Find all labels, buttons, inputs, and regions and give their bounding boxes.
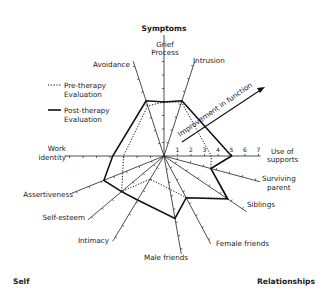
tick-label: 1 <box>176 146 180 153</box>
axis-label-intimacy: Intimacy <box>78 236 110 245</box>
tick-mark <box>112 199 113 201</box>
tick-mark <box>183 191 185 192</box>
tick-mark <box>139 166 140 168</box>
axis-label-parent: Surviving <box>262 174 296 183</box>
axis-label-selfesteem: Self-esteem <box>42 213 85 222</box>
axis-selfesteem <box>88 156 164 220</box>
data-polygons <box>104 101 232 219</box>
tick-mark <box>114 176 115 178</box>
tick-mark <box>154 130 156 131</box>
tick-label: 2 <box>189 146 193 153</box>
tick-mark <box>158 143 160 144</box>
axis-label-grief-2: Process <box>151 48 179 57</box>
tick-mark <box>203 165 204 167</box>
legend-pre-label-2: Evaluation <box>64 90 102 99</box>
tick-mark <box>231 200 232 202</box>
tick-mark <box>137 79 139 80</box>
tick-mark <box>76 191 77 193</box>
tick-mark <box>191 66 193 67</box>
tick-mark <box>189 203 191 204</box>
tick-mark <box>150 117 152 118</box>
axis-label-parent-2: parent <box>267 183 291 192</box>
group-label-relationships: Relationships <box>257 277 316 286</box>
improvement-arrow: Improvement in function <box>176 80 265 142</box>
axis-label-work-2: identity <box>39 153 67 162</box>
tick-mark <box>216 168 217 170</box>
tick-mark <box>186 169 187 171</box>
group-label-symptoms: Symptoms <box>141 24 187 33</box>
axis-label-supports-2: supports <box>267 155 299 164</box>
annotation-improvement: Improvement in function <box>176 80 254 138</box>
axis-male <box>164 156 181 254</box>
axis-intimacy <box>113 156 164 241</box>
tick-mark <box>166 143 168 144</box>
axis-label-avoidance: Avoidance <box>93 60 131 69</box>
tick-label: 6 <box>243 146 247 153</box>
tick-label: 4 <box>216 146 220 153</box>
tick-mark <box>133 182 134 184</box>
axis-label-siblings: Siblings <box>247 200 275 209</box>
tick-mark <box>145 105 147 106</box>
tick-mark <box>183 91 185 92</box>
axis-siblings <box>164 156 246 212</box>
tick-mark <box>177 179 179 180</box>
tick-mark <box>196 215 198 216</box>
tick-mark <box>242 175 243 177</box>
tick-mark <box>92 217 93 219</box>
tick-mark <box>190 161 191 163</box>
tick-mark <box>220 192 221 194</box>
axis-label-female: Female friends <box>216 239 269 248</box>
tick-mark <box>136 202 138 203</box>
legend-post-label: Post-therapy <box>64 106 110 115</box>
tick-mark <box>229 172 230 174</box>
axis-parent <box>164 156 260 182</box>
axis-female <box>164 156 211 244</box>
group-label-self: Self <box>13 277 30 286</box>
axis-label-work: Work <box>48 144 67 153</box>
tick-mark <box>198 177 199 179</box>
tick-mark <box>129 214 131 215</box>
legend: Pre-therapy Evaluation Post-therapy Eval… <box>48 81 110 124</box>
tick-mark <box>175 162 176 164</box>
axis-avoidance <box>133 61 164 156</box>
radar-chart: Symptoms Self Relationships Pre-therapy … <box>0 0 324 300</box>
axis-assert <box>72 156 164 193</box>
tick-mark <box>179 104 181 105</box>
axis-label-assertiveness: Assertiveness <box>23 190 73 199</box>
tick-mark <box>151 161 152 163</box>
legend-pre-label: Pre-therapy <box>64 81 107 90</box>
tick-mark <box>187 78 189 79</box>
axis-label-intrusion: Intrusion <box>193 56 225 65</box>
tick-mark <box>242 207 243 209</box>
tick-mark <box>170 167 172 168</box>
tick-labels: 1234567 <box>176 146 261 153</box>
tick-mark <box>209 185 210 187</box>
tick-mark <box>208 238 210 239</box>
tick-mark <box>122 225 124 226</box>
tick-label: 7 <box>257 146 261 153</box>
tick-mark <box>126 171 127 173</box>
tick-mark <box>143 173 144 175</box>
axis-intrusion <box>164 61 195 156</box>
tick-mark <box>157 168 159 169</box>
tick-mark <box>175 117 177 118</box>
tick-mark <box>115 237 117 238</box>
legend-post-label-2: Evaluation <box>64 115 102 124</box>
tick-mark <box>154 165 155 167</box>
tick-label: 5 <box>230 146 234 153</box>
tick-mark <box>202 227 204 228</box>
axis-label-male: Male friends <box>144 253 188 262</box>
tick-mark <box>101 181 102 183</box>
tick-label: 3 <box>203 146 207 153</box>
tick-mark <box>89 186 90 188</box>
tick-mark <box>143 191 145 192</box>
tick-mark <box>177 158 178 160</box>
tick-mark <box>133 66 135 67</box>
tick-mark <box>170 130 172 131</box>
tick-mark <box>102 208 103 210</box>
tick-mark <box>255 179 256 181</box>
tick-mark <box>141 92 143 93</box>
